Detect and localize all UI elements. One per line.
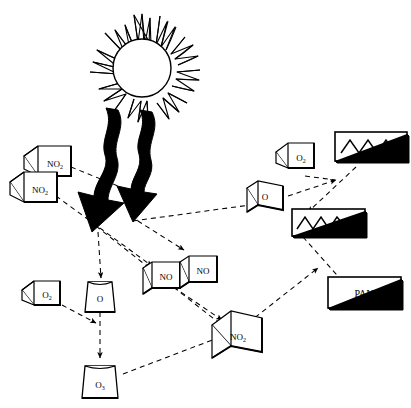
sunlight-arrow-right bbox=[117, 110, 157, 222]
edge-oslab-to-chbox bbox=[288, 180, 336, 196]
edge-upper-to-nob bbox=[130, 216, 184, 250]
node-label-no-b: NO bbox=[197, 266, 210, 276]
node-no2-b[interactable]: NO2 bbox=[10, 172, 57, 202]
diagram-svg: NO2 NO2 O2 O O bbox=[0, 0, 411, 408]
edge-no2c-to-panbox bbox=[248, 268, 318, 323]
edge-o2right-to-chbox bbox=[305, 176, 335, 180]
node-pan-box[interactable]: PAN bbox=[328, 277, 403, 310]
node-label-o-slab: O bbox=[262, 192, 269, 202]
node-o-slab[interactable]: O bbox=[247, 181, 283, 212]
node-no-a[interactable]: NO bbox=[143, 262, 180, 294]
node-no-b[interactable]: NO bbox=[180, 256, 217, 288]
sun-disc bbox=[113, 39, 171, 97]
node-label-o-flask: O bbox=[97, 294, 104, 304]
edge-sunbeam-right-to-oslab bbox=[133, 205, 250, 221]
node-label-co-box: CO bbox=[346, 220, 358, 230]
edge-sunbeam-to-o-flask bbox=[98, 232, 101, 278]
node-ch-box[interactable]: CH bbox=[335, 132, 409, 163]
node-o3[interactable]: O3 bbox=[82, 366, 118, 398]
node-o2-right[interactable]: O2 bbox=[276, 143, 314, 168]
node-label-no-a: NO bbox=[160, 272, 173, 282]
node-label-ch-box: CH bbox=[396, 144, 408, 154]
node-o2-left[interactable]: O2 bbox=[22, 281, 60, 305]
sun-icon bbox=[90, 14, 200, 122]
node-o-flask[interactable]: O bbox=[85, 282, 115, 312]
node-co-box[interactable]: CO bbox=[292, 209, 367, 238]
smog-diagram-canvas: NO2 NO2 O2 O O bbox=[0, 0, 411, 408]
sunlight-arrow-left bbox=[78, 108, 124, 232]
node-label-pan-box: PAN bbox=[354, 288, 373, 299]
edge-chbox-to-cobox bbox=[308, 167, 356, 212]
